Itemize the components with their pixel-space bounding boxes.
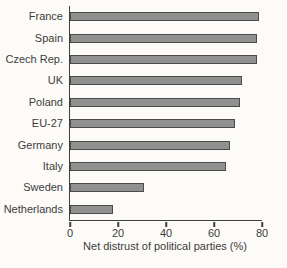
category-label: Spain: [35, 33, 63, 44]
bar-row: France: [70, 6, 262, 27]
bar-row: Sweden: [70, 177, 262, 198]
bar-row: EU-27: [70, 113, 262, 134]
bar-row: Netherlands: [70, 199, 262, 220]
bar-row: Poland: [70, 92, 262, 113]
category-label: Sweden: [23, 182, 63, 193]
x-axis-tick-label: 80: [256, 228, 268, 239]
x-axis-tick: [213, 222, 215, 227]
x-axis-tick: [69, 222, 71, 227]
x-axis-tick: [261, 222, 263, 227]
bar: [70, 76, 242, 85]
bar: [70, 119, 235, 128]
bar-row: Germany: [70, 134, 262, 155]
category-label: Netherlands: [4, 204, 63, 215]
x-axis-title: Net distrust of political parties (%): [69, 240, 261, 252]
category-label: UK: [48, 75, 63, 86]
x-axis-tick: [117, 222, 119, 227]
category-label: Italy: [43, 161, 63, 172]
bar: [70, 141, 230, 150]
bar: [70, 183, 144, 192]
bar: [70, 12, 259, 21]
x-axis-tick-label: 40: [160, 228, 172, 239]
category-label: EU-27: [32, 118, 63, 129]
bar: [70, 34, 257, 43]
bar: [70, 205, 113, 214]
x-axis-tick-label: 20: [112, 228, 124, 239]
x-axis-tick-label: 0: [67, 228, 73, 239]
category-label: Poland: [29, 97, 63, 108]
plot-area: FranceSpainCzech Rep.UKPolandEU-27German…: [69, 6, 262, 221]
bar-row: Italy: [70, 156, 262, 177]
bar-row: Czech Rep.: [70, 49, 262, 70]
bar: [70, 98, 240, 107]
x-axis-tick: [165, 222, 167, 227]
category-label: Germany: [18, 140, 63, 151]
bar-row: Spain: [70, 27, 262, 48]
bar: [70, 162, 226, 171]
x-axis-tick-label: 60: [208, 228, 220, 239]
bar-row: UK: [70, 70, 262, 91]
category-label: France: [29, 11, 63, 22]
bar-chart: FranceSpainCzech Rep.UKPolandEU-27German…: [0, 0, 287, 268]
category-label: Czech Rep.: [6, 54, 63, 65]
bar: [70, 55, 257, 64]
